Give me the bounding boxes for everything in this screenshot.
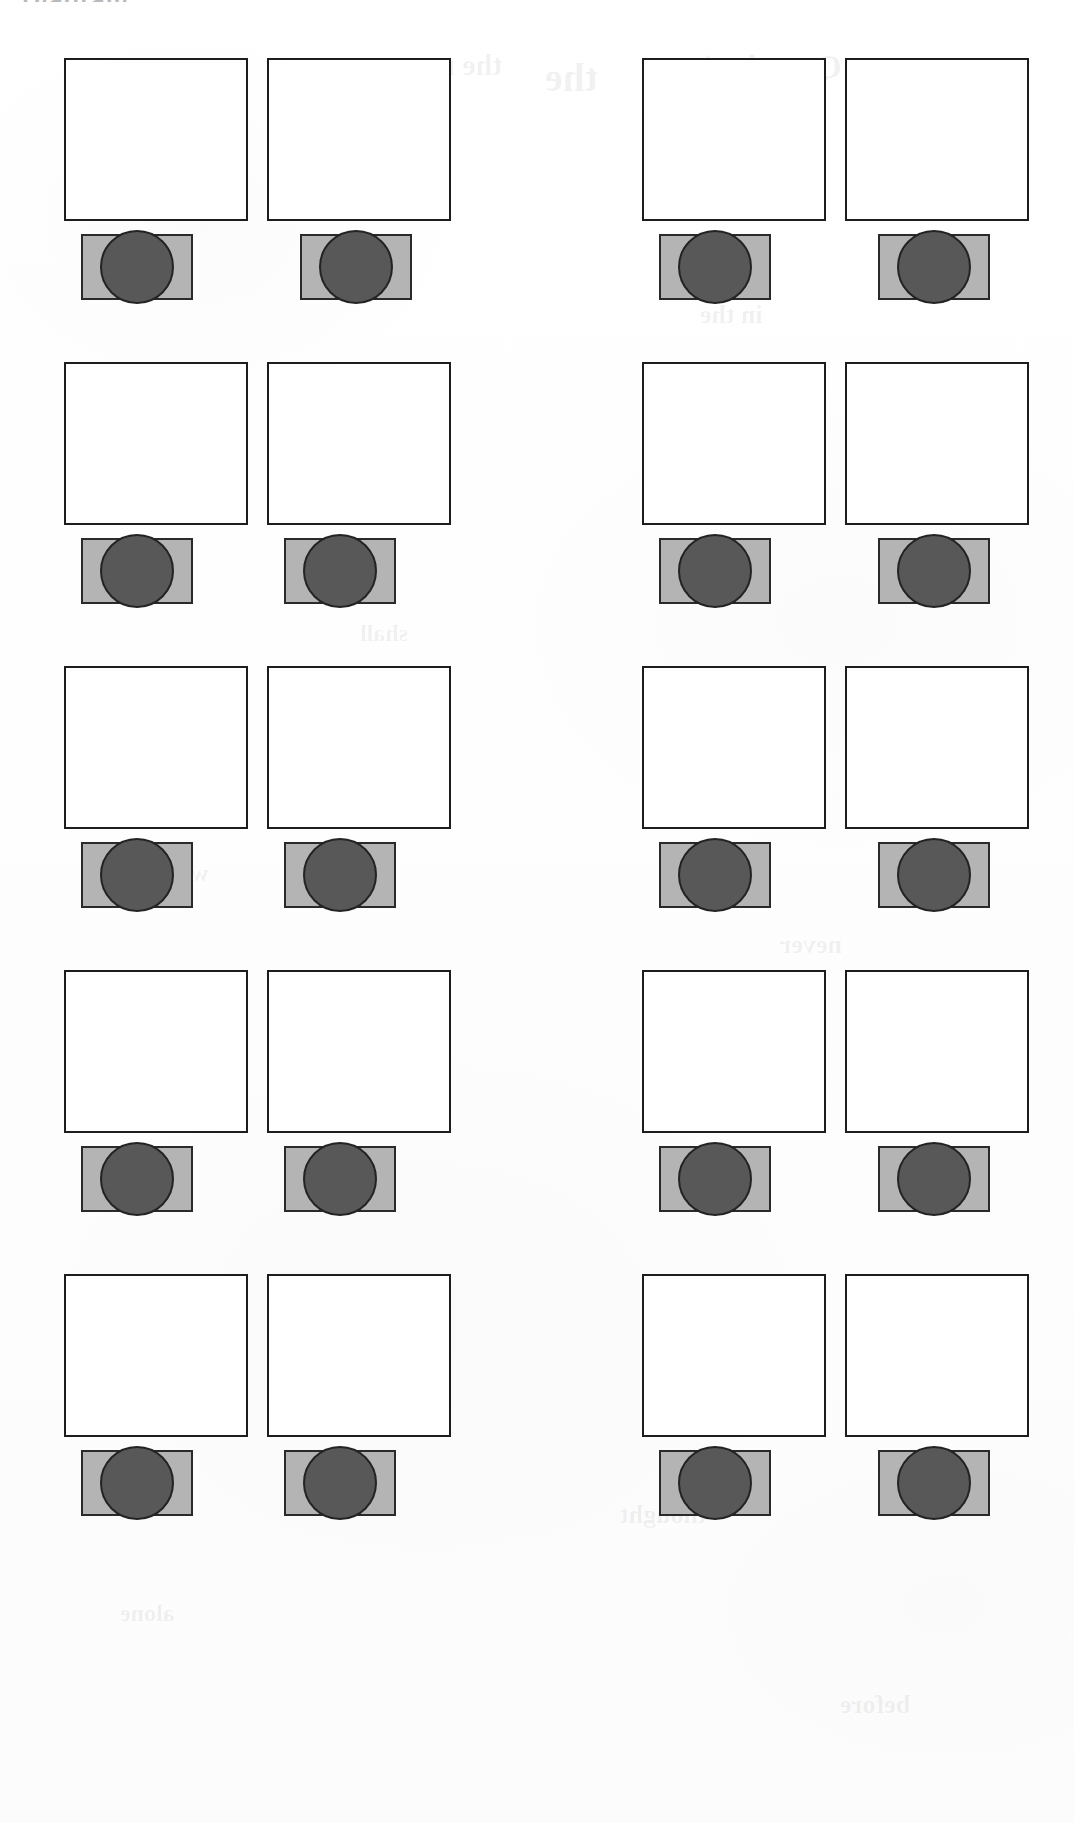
disc-icon-r2c2 — [303, 534, 377, 608]
disc-icon-r4c1 — [100, 1142, 174, 1216]
diagram-unit-r4c1 — [64, 970, 250, 1212]
diagram-unit-r1c3 — [642, 58, 828, 300]
disc-icon-r1c4 — [897, 230, 971, 304]
outline-square-r4c4 — [845, 970, 1029, 1133]
shaded-block-r2c1 — [81, 538, 193, 604]
outline-square-r5c4 — [845, 1274, 1029, 1437]
diagram-unit-r3c1 — [64, 666, 250, 908]
disc-icon-r5c4 — [897, 1446, 971, 1520]
disc-icon-r3c1 — [100, 838, 174, 912]
diagram-unit-r2c2 — [267, 362, 453, 604]
disc-icon-r4c3 — [678, 1142, 752, 1216]
diagram-unit-r5c2 — [267, 1274, 453, 1516]
shaded-block-r5c4 — [878, 1450, 990, 1516]
shaded-block-r3c4 — [878, 842, 990, 908]
diagram-unit-r3c2 — [267, 666, 453, 908]
shaded-block-r4c3 — [659, 1146, 771, 1212]
outline-square-r2c1 — [64, 362, 248, 525]
outline-square-r2c3 — [642, 362, 826, 525]
outline-square-r2c2 — [267, 362, 451, 525]
shaded-block-r3c2 — [284, 842, 396, 908]
disc-icon-r4c2 — [303, 1142, 377, 1216]
outline-square-r4c3 — [642, 970, 826, 1133]
disc-icon-r2c4 — [897, 534, 971, 608]
shaded-block-r1c3 — [659, 234, 771, 300]
disc-icon-r2c1 — [100, 534, 174, 608]
disc-icon-r3c2 — [303, 838, 377, 912]
outline-square-r4c1 — [64, 970, 248, 1133]
shaded-block-r1c4 — [878, 234, 990, 300]
disc-icon-r5c3 — [678, 1446, 752, 1520]
outline-square-r1c1 — [64, 58, 248, 221]
disc-icon-r1c3 — [678, 230, 752, 304]
diagram-unit-r1c4 — [845, 58, 1031, 300]
outline-square-r5c3 — [642, 1274, 826, 1437]
outline-square-r3c2 — [267, 666, 451, 829]
disc-icon-r1c2 — [319, 230, 393, 304]
shaded-block-r5c2 — [284, 1450, 396, 1516]
diagram-unit-r2c1 — [64, 362, 250, 604]
diagram-unit-r4c2 — [267, 970, 453, 1212]
diagram-unit-r5c1 — [64, 1274, 250, 1516]
diagram-unit-r1c2 — [267, 58, 453, 300]
outline-square-r5c1 — [64, 1274, 248, 1437]
disc-icon-r5c2 — [303, 1446, 377, 1520]
outline-square-r3c3 — [642, 666, 826, 829]
outline-square-r5c2 — [267, 1274, 451, 1437]
disc-icon-r2c3 — [678, 534, 752, 608]
scanned-page: Diagram theQuestion)the murmurandshallin… — [0, 0, 1074, 1823]
outline-square-r3c1 — [64, 666, 248, 829]
shaded-block-r3c1 — [81, 842, 193, 908]
diagram-unit-r5c3 — [642, 1274, 828, 1516]
shaded-block-r4c2 — [284, 1146, 396, 1212]
outline-square-r1c4 — [845, 58, 1029, 221]
outline-square-r2c4 — [845, 362, 1029, 525]
disc-icon-r3c4 — [897, 838, 971, 912]
shaded-block-r2c3 — [659, 538, 771, 604]
outline-square-r1c2 — [267, 58, 451, 221]
disc-icon-r4c4 — [897, 1142, 971, 1216]
diagram-unit-r2c4 — [845, 362, 1031, 604]
shaded-block-r2c4 — [878, 538, 990, 604]
disc-icon-r3c3 — [678, 838, 752, 912]
diagram-unit-r5c4 — [845, 1274, 1031, 1516]
disc-icon-r1c1 — [100, 230, 174, 304]
diagram-unit-r2c3 — [642, 362, 828, 604]
shaded-block-r3c3 — [659, 842, 771, 908]
outline-square-r4c2 — [267, 970, 451, 1133]
shaded-block-r5c1 — [81, 1450, 193, 1516]
diagram-grid — [0, 0, 1074, 1823]
shaded-block-r4c1 — [81, 1146, 193, 1212]
diagram-unit-r4c3 — [642, 970, 828, 1212]
shaded-block-r1c1 — [81, 234, 193, 300]
outline-square-r3c4 — [845, 666, 1029, 829]
outline-square-r1c3 — [642, 58, 826, 221]
shaded-block-r5c3 — [659, 1450, 771, 1516]
shaded-block-r2c2 — [284, 538, 396, 604]
disc-icon-r5c1 — [100, 1446, 174, 1520]
diagram-unit-r4c4 — [845, 970, 1031, 1212]
diagram-unit-r3c3 — [642, 666, 828, 908]
shaded-block-r1c2 — [300, 234, 412, 300]
diagram-unit-r1c1 — [64, 58, 250, 300]
shaded-block-r4c4 — [878, 1146, 990, 1212]
diagram-unit-r3c4 — [845, 666, 1031, 908]
